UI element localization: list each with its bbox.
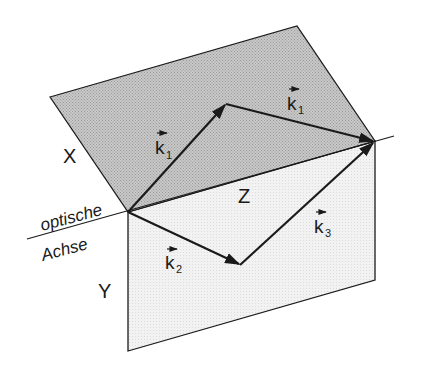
svg-text:1: 1 bbox=[166, 149, 172, 161]
label-axis-achse: Achse bbox=[38, 234, 90, 265]
svg-text:3: 3 bbox=[325, 227, 331, 239]
svg-text:k: k bbox=[155, 137, 165, 158]
svg-text:k: k bbox=[287, 93, 297, 114]
diagram-canvas: X Y Z optische Achse k 1 k 1 k 2 k 3 bbox=[0, 0, 427, 376]
label-plane-y: Y bbox=[98, 280, 111, 302]
svg-text:k: k bbox=[165, 252, 175, 273]
svg-text:k: k bbox=[314, 216, 324, 237]
diagram-svg: X Y Z optische Achse k 1 k 1 k 2 k 3 bbox=[0, 0, 427, 376]
label-plane-x: X bbox=[63, 145, 76, 167]
label-axis-optische: optische bbox=[38, 200, 104, 235]
svg-text:1: 1 bbox=[298, 104, 304, 116]
label-plane-z: Z bbox=[238, 185, 250, 207]
svg-text:2: 2 bbox=[176, 263, 182, 275]
